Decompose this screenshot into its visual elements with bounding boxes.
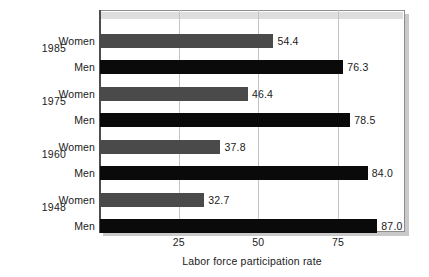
series-label-men: Men (0, 114, 95, 126)
bar-1960-men (100, 166, 368, 180)
x-tick-label: 25 (164, 236, 194, 248)
bar-value-label: 84.0 (372, 167, 393, 179)
bar-value-label: 78.5 (354, 114, 375, 126)
year-label-1948: 1948 (0, 201, 66, 213)
bar-1985-men (100, 60, 343, 74)
year-label-1960: 1960 (0, 148, 66, 160)
year-label-1975: 1975 (0, 95, 66, 107)
series-label-men: Men (0, 220, 95, 232)
x-tick-label: 50 (243, 236, 273, 248)
bar-1960-women (100, 140, 220, 154)
year-label-1985: 1985 (0, 42, 66, 54)
bar-value-label: 87.0 (381, 220, 402, 232)
x-tick-label: 75 (323, 236, 353, 248)
bar-1975-men (100, 113, 350, 127)
bar-value-label: 76.3 (347, 61, 368, 73)
bar-1948-men (100, 219, 377, 233)
bar-1975-women (100, 87, 248, 101)
series-label-men: Men (0, 167, 95, 179)
bar-1948-women (100, 193, 204, 207)
bars-group: 54.476.346.478.537.884.032.787.0 (99, 10, 405, 232)
bar-1985-women (100, 34, 273, 48)
bar-value-label: 54.4 (277, 35, 298, 47)
category-axis-labels: WomenMen1985WomenMen1975WomenMen1960Wome… (0, 0, 99, 277)
bar-value-label: 46.4 (252, 88, 273, 100)
bar-chart: WomenMen1985WomenMen1975WomenMen1960Wome… (0, 0, 429, 277)
bar-value-label: 37.8 (224, 141, 245, 153)
series-label-men: Men (0, 61, 95, 73)
x-axis-title: Labor force participation rate (99, 255, 405, 267)
bar-value-label: 32.7 (208, 194, 229, 206)
